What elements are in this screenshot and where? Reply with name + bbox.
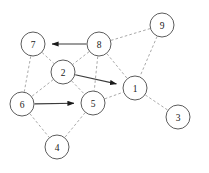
node-label-9: 9 (160, 21, 165, 31)
dashed-edge-7-6 (24, 56, 30, 91)
graph-node-4[interactable]: 4 (45, 135, 69, 159)
node-label-6: 6 (20, 100, 25, 110)
directed-edge-6-to-5 (34, 103, 74, 104)
node-layer: 789216534 (10, 13, 190, 159)
node-label-3: 3 (176, 113, 181, 123)
graph-node-3[interactable]: 3 (166, 105, 190, 129)
dashed-edge-2-6 (32, 80, 53, 97)
dashed-edge-9-1 (140, 36, 157, 76)
node-label-8: 8 (97, 40, 102, 50)
dashed-edge-8-2 (73, 52, 89, 65)
node-label-4: 4 (55, 143, 60, 153)
graph-node-2[interactable]: 2 (51, 60, 75, 84)
graph-canvas: 789216534 (0, 0, 209, 173)
dashed-edge-5-4 (65, 113, 85, 138)
graph-node-5[interactable]: 5 (81, 91, 105, 115)
dashed-edge-1-3 (145, 95, 167, 110)
node-label-2: 2 (61, 68, 66, 78)
node-label-5: 5 (91, 99, 96, 109)
dashed-edge-2-5 (72, 81, 85, 94)
node-label-1: 1 (133, 84, 138, 94)
graph-node-9[interactable]: 9 (150, 13, 174, 37)
dashed-edge-8-1 (107, 54, 127, 79)
graph-diagram: 789216534 (0, 0, 209, 173)
node-label-7: 7 (31, 40, 36, 50)
dashed-edge-5-1 (105, 92, 123, 99)
graph-node-7[interactable]: 7 (21, 32, 45, 56)
dashed-edge-8-9 (111, 29, 150, 41)
graph-node-1[interactable]: 1 (123, 76, 147, 100)
dashed-edge-8-5 (94, 56, 97, 90)
dashed-edge-6-4 (30, 114, 49, 138)
dashed-edge-7-2 (42, 53, 54, 64)
graph-node-8[interactable]: 8 (87, 32, 111, 56)
graph-node-6[interactable]: 6 (10, 92, 34, 116)
